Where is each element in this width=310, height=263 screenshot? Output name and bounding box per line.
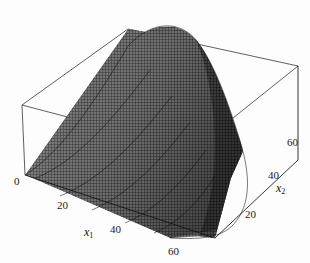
surface-plot-figure: 0 20 40 60 20 40 60 x1 x2 bbox=[0, 0, 310, 263]
x1-tick-60: 60 bbox=[168, 246, 179, 257]
x1-tick-20: 20 bbox=[57, 200, 68, 211]
x2-axis-label: x2 bbox=[276, 182, 285, 196]
x1-axis-label-subscript: 1 bbox=[89, 231, 93, 240]
x2-axis-label-subscript: 2 bbox=[281, 187, 285, 196]
surface-plot-canvas bbox=[0, 0, 310, 263]
x2-tick-40: 40 bbox=[268, 170, 279, 181]
x1-axis-label: x1 bbox=[84, 226, 93, 240]
x2-tick-20: 20 bbox=[245, 209, 256, 220]
x1-tick-0: 0 bbox=[14, 176, 20, 187]
x1-tick-40: 40 bbox=[110, 224, 121, 235]
x2-tick-60: 60 bbox=[287, 137, 298, 148]
